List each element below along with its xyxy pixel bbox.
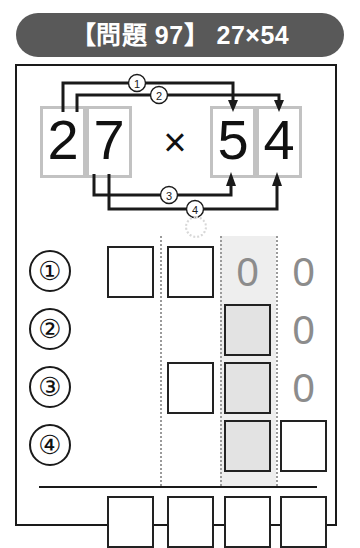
cell-row4-col3[interactable] [224, 420, 271, 472]
page-title: 【問題 97】 27×54 [71, 23, 289, 48]
answer-cell-col4[interactable] [280, 496, 327, 548]
cell-row1-col3-zero: 0 [224, 246, 271, 298]
title-bar: 【問題 97】 27×54 [16, 13, 344, 57]
cell-row4-col4[interactable] [280, 420, 327, 472]
arrow-4-label: 4 [192, 204, 198, 216]
work-grid: ① 0 0 ② 0 ③ 0 ④ [17, 236, 339, 526]
cell-row1-col1[interactable] [107, 246, 154, 298]
row-badge-3: ③ [29, 366, 71, 408]
answer-cell-col1[interactable] [107, 496, 154, 548]
expression-area: 2 7 × 5 4 1 [17, 66, 339, 236]
arrow-3: 3 [94, 172, 236, 204]
answer-cell-col2[interactable] [167, 496, 214, 548]
cell-row2-col3[interactable] [224, 304, 271, 356]
cell-row1-col4-zero: 0 [280, 246, 327, 298]
column-divider-3 [276, 236, 278, 486]
cell-row1-col2[interactable] [167, 246, 214, 298]
problem-frame: 2 7 × 5 4 1 [15, 64, 337, 526]
column-divider-1 [160, 236, 162, 486]
arrow-3-label: 3 [166, 190, 172, 202]
row-badge-2: ② [29, 308, 71, 350]
cell-row3-col3[interactable] [224, 362, 271, 414]
arrow-2-label: 2 [156, 90, 162, 102]
arrow-1-label: 1 [134, 78, 140, 90]
row-badge-4: ④ [29, 424, 71, 466]
arrow-2: 2 [77, 87, 284, 113]
ghost-hint-circle-icon [185, 216, 207, 238]
answer-separator-rule [39, 486, 317, 488]
column-divider-2 [220, 236, 222, 486]
cell-row3-col4-zero: 0 [280, 362, 327, 414]
answer-cell-col3[interactable] [224, 496, 271, 548]
row-badge-1: ① [29, 250, 71, 292]
cell-row3-col2[interactable] [167, 362, 214, 414]
cell-row2-col4-zero: 0 [280, 304, 327, 356]
